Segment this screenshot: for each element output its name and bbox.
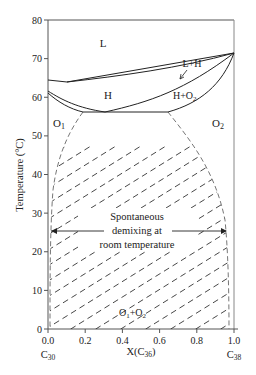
label-l: L: [100, 37, 107, 49]
x-tick-label: 0.2: [79, 335, 92, 346]
label-o2: O2: [212, 117, 224, 131]
y-tick-label: 40: [32, 169, 42, 180]
x-axis-ticks: 0.00.20.40.60.81.0: [42, 329, 241, 346]
y-axis-label: Temperature (°C): [14, 138, 26, 212]
label-o1: O1: [53, 117, 65, 131]
x-axis-label: X(C36): [126, 346, 156, 359]
x-tick-label: 0.6: [153, 335, 166, 346]
y-tick-label: 30: [32, 208, 42, 219]
l-h-pointer-arrow: [180, 70, 187, 79]
x-left-end-label: C30: [41, 349, 56, 362]
y-tick-label: 60: [32, 92, 42, 103]
h-o1-boundary-upper: [48, 91, 105, 112]
annotation-line-1: Spontaneous: [110, 211, 164, 222]
y-tick-label: 0: [37, 324, 42, 335]
y-tick-label: 50: [32, 130, 42, 141]
x-tick-label: 1.0: [228, 335, 241, 346]
x-tick-label: 0.8: [191, 335, 204, 346]
label-l-h: L+H: [183, 58, 202, 69]
h-o1-boundary-lower: [48, 93, 83, 112]
x-right-end-label: C38: [227, 349, 242, 362]
y-axis-ticks: 01020304050607080: [32, 15, 48, 335]
label-h: H: [104, 89, 112, 101]
y-tick-label: 70: [32, 53, 42, 64]
label-h-o2: H+O2: [173, 90, 197, 103]
annotation-line-2: demixing at: [112, 225, 162, 236]
y-tick-label: 10: [32, 285, 42, 296]
phase-boundaries: [48, 53, 234, 112]
arrow-left-icon: [51, 228, 57, 234]
annotation-line-3: room temperature: [100, 239, 175, 250]
y-tick-label: 20: [32, 246, 42, 257]
liquidus-line: [48, 53, 234, 82]
demixing-annotation: Spontaneous demixing at room temperature: [51, 208, 227, 251]
phase-diagram: 01020304050607080 0.00.20.40.60.81.0 L L…: [0, 0, 256, 375]
x-tick-label: 0.0: [42, 335, 55, 346]
y-tick-label: 80: [32, 15, 42, 26]
x-tick-label: 0.4: [116, 335, 129, 346]
h-ho2-boundary: [105, 53, 234, 112]
label-o1-o2: O1+O2: [119, 307, 147, 320]
